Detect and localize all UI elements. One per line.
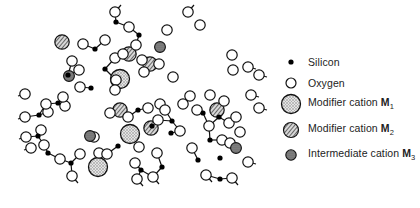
oxygen-atom xyxy=(143,103,153,113)
oxygen-atom xyxy=(110,7,120,17)
silicon-symbol-icon xyxy=(280,52,302,72)
oxygen-atom xyxy=(41,99,51,109)
oxygen-atom xyxy=(228,65,238,75)
oxygen-atom xyxy=(231,112,241,122)
legend-label-m1: Modifier cation M1 xyxy=(308,96,394,111)
intermediate-cation-m3 xyxy=(155,42,166,53)
legend-item-oxygen: Oxygen xyxy=(280,73,345,93)
oxygen-atom xyxy=(67,56,77,66)
oxygen-atom xyxy=(74,65,84,75)
silicon-atom xyxy=(136,32,141,37)
oxygen-atom xyxy=(100,35,110,45)
oxygen-atom xyxy=(154,59,164,69)
oxygen-atom xyxy=(58,92,68,102)
oxygen-atom xyxy=(148,172,158,182)
oxygen-symbol-icon xyxy=(280,73,302,93)
silicon-atom xyxy=(115,143,120,148)
oxygen-atom xyxy=(130,158,140,168)
modifier-m1-symbol-icon xyxy=(280,94,302,114)
oxygen-atom xyxy=(26,143,36,153)
oxygen-atom xyxy=(195,20,205,30)
silicon-atom xyxy=(200,110,205,115)
legend-item-modifier-m1: Modifier cation M1 xyxy=(280,94,394,114)
oxygen-atom xyxy=(55,154,65,164)
oxygen-atom xyxy=(123,112,133,122)
silicon-atom xyxy=(207,137,212,142)
legend-item-modifier-m2: Modifier cation M2 xyxy=(280,120,394,140)
oxygen-atom xyxy=(152,148,162,158)
silicon-atom xyxy=(149,123,154,128)
oxygen-atom xyxy=(21,132,31,142)
silicon-atom xyxy=(35,133,40,138)
oxygen-atom xyxy=(78,39,88,49)
legend-label-silicon: Silicon xyxy=(308,56,340,68)
oxygen-atom xyxy=(124,22,134,32)
silicon-atom xyxy=(113,19,118,24)
oxygen-atom xyxy=(132,174,142,184)
oxygen-atom xyxy=(111,75,121,85)
silicon-atom xyxy=(68,160,73,165)
intermediate-cation-m3 xyxy=(231,143,242,154)
oxygen-atom xyxy=(118,49,128,59)
silicon-atom xyxy=(217,155,222,160)
oxygen-atom xyxy=(67,171,77,181)
oxygen-atom xyxy=(162,25,172,35)
oxygen-atom xyxy=(137,55,147,65)
intermediate-m3-symbol-icon xyxy=(280,145,302,165)
oxygen-atom xyxy=(227,50,237,60)
silicon-atom xyxy=(168,130,173,135)
legend-label-oxygen: Oxygen xyxy=(308,77,345,89)
silicon-atom xyxy=(45,150,50,155)
oxygen-atom xyxy=(134,142,144,152)
oxygen-atom xyxy=(131,40,141,50)
oxygen-atom xyxy=(175,126,185,136)
silicon-atom xyxy=(217,176,222,181)
silicon-atom xyxy=(135,107,140,112)
modifier-cation-m1 xyxy=(89,158,108,177)
legend-item-intermediate-m3: Intermediate cation M3 xyxy=(280,145,415,165)
oxygen-atom xyxy=(160,105,170,115)
oxygen-atom xyxy=(219,96,229,106)
silicon-atom xyxy=(195,157,200,162)
silicon-atom xyxy=(138,167,143,172)
oxygen-atom xyxy=(75,82,85,92)
oxygen-atom xyxy=(139,67,149,77)
silicon-atom xyxy=(216,114,221,119)
legend-label-m2: Modifier cation M2 xyxy=(308,122,394,137)
oxygen-atom xyxy=(254,70,264,80)
oxygen-atom xyxy=(187,143,197,153)
silicon-atom xyxy=(102,66,107,71)
oxygen-atom xyxy=(105,108,115,118)
oxygen-atom xyxy=(246,90,256,100)
oxygen-atoms-group xyxy=(20,7,264,184)
oxygen-atom xyxy=(205,90,215,100)
oxygen-atom xyxy=(102,149,112,159)
oxygen-atom xyxy=(183,7,193,17)
oxygen-atom xyxy=(235,127,245,137)
intermediate-cation-m3 xyxy=(85,131,96,142)
oxygen-atom xyxy=(153,115,163,125)
oxygen-atom xyxy=(204,121,214,131)
oxygen-atom xyxy=(254,103,264,113)
oxygen-atom xyxy=(110,85,120,95)
modifier-cation-m1 xyxy=(121,125,140,144)
oxygen-atom xyxy=(168,72,178,82)
modifier-cation-m2 xyxy=(55,35,69,49)
oxygen-atom xyxy=(75,149,85,159)
oxygen-atom xyxy=(185,91,195,101)
oxygen-atom xyxy=(39,140,49,150)
modifier-m2-symbol-icon xyxy=(280,120,302,140)
legend-item-silicon: Silicon xyxy=(280,52,340,72)
oxygen-atom xyxy=(227,173,237,183)
silicon-atom xyxy=(36,112,41,117)
legend-label-m3: Intermediate cation M3 xyxy=(308,147,415,162)
oxygen-atom xyxy=(20,89,30,99)
silicon-atom xyxy=(88,85,93,90)
oxygen-atom xyxy=(243,62,253,72)
silicon-atom xyxy=(55,100,60,105)
silicon-atom xyxy=(92,46,97,51)
oxygen-atom xyxy=(243,157,253,167)
oxygen-atom xyxy=(201,170,211,180)
silicon-atom xyxy=(159,164,164,169)
oxygen-atom xyxy=(20,112,30,122)
